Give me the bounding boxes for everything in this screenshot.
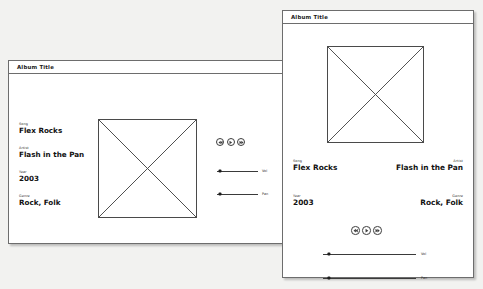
pan-slider-track[interactable] bbox=[217, 194, 258, 195]
right-panel-header: Album Title bbox=[283, 11, 473, 24]
pan-slider[interactable]: Pan bbox=[323, 276, 427, 280]
pan-slider[interactable]: Pan bbox=[217, 192, 268, 196]
pan-slider-knob[interactable] bbox=[219, 193, 222, 196]
right-panel-title: Album Title bbox=[291, 14, 328, 20]
volume-slider-knob[interactable] bbox=[219, 170, 222, 173]
wireframe-canvas: Album Title Song Flex Rocks Artist Flash… bbox=[0, 0, 483, 289]
next-track-button[interactable] bbox=[237, 138, 245, 146]
pan-slider-track[interactable] bbox=[323, 278, 416, 279]
play-button[interactable] bbox=[362, 226, 371, 235]
volume-slider-label: Vol bbox=[262, 169, 267, 173]
field-genre: Genre Rock, Folk bbox=[19, 195, 61, 208]
field-song: Song Flex Rocks bbox=[19, 123, 62, 136]
field-artist: Artist Flash in the Pan bbox=[19, 147, 84, 160]
previous-track-button[interactable] bbox=[216, 138, 224, 146]
field-year-value: 2003 bbox=[19, 175, 39, 183]
play-button[interactable] bbox=[227, 138, 235, 146]
previous-track-button[interactable] bbox=[351, 226, 360, 235]
volume-slider-knob[interactable] bbox=[327, 252, 330, 255]
volume-slider-track[interactable] bbox=[217, 171, 258, 172]
field-song: Song Flex Rocks bbox=[293, 160, 337, 173]
volume-slider-label: Vol bbox=[421, 252, 426, 256]
pan-slider-knob[interactable] bbox=[327, 276, 330, 279]
left-panel: Album Title Song Flex Rocks Artist Flash… bbox=[8, 60, 286, 244]
field-year: Year 2003 bbox=[19, 171, 39, 184]
transport-controls bbox=[216, 138, 245, 146]
pan-slider-label: Pan bbox=[421, 276, 427, 280]
field-year-value: 2003 bbox=[293, 199, 314, 208]
right-panel-body: Song Flex Rocks Artist Flash in the Pan … bbox=[283, 24, 473, 289]
transport-controls bbox=[351, 226, 382, 235]
volume-slider[interactable]: Vol bbox=[217, 169, 267, 173]
field-artist-value: Flash in the Pan bbox=[396, 164, 463, 173]
field-genre: Genre Rock, Folk bbox=[420, 195, 463, 208]
field-artist: Artist Flash in the Pan bbox=[396, 160, 463, 173]
field-genre-value: Rock, Folk bbox=[19, 199, 61, 207]
image-placeholder-x-box bbox=[327, 46, 424, 143]
field-song-value: Flex Rocks bbox=[293, 164, 337, 173]
image-placeholder-x-box bbox=[98, 119, 197, 218]
field-song-value: Flex Rocks bbox=[19, 127, 62, 135]
left-panel-title: Album Title bbox=[17, 64, 54, 70]
left-panel-body: Song Flex Rocks Artist Flash in the Pan … bbox=[9, 74, 285, 256]
right-panel: Album Title Song Flex Rocks Artist Flash… bbox=[282, 10, 474, 278]
left-panel-header: Album Title bbox=[9, 61, 285, 74]
field-year: Year 2003 bbox=[293, 195, 314, 208]
pan-slider-label: Pan bbox=[262, 192, 268, 196]
next-track-button[interactable] bbox=[373, 226, 382, 235]
field-genre-value: Rock, Folk bbox=[420, 199, 463, 208]
field-artist-value: Flash in the Pan bbox=[19, 151, 84, 159]
volume-slider-track[interactable] bbox=[323, 254, 416, 255]
volume-slider[interactable]: Vol bbox=[323, 252, 426, 256]
